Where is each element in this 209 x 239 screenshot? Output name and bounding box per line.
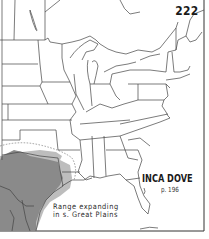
range-map: 222 INCA DOVE p. 196 Range expanding in …: [0, 0, 209, 239]
species-name: INCA DOVE: [142, 172, 193, 184]
page-reference: p. 196: [161, 186, 179, 194]
range-annotation-line-2: in s. Great Plains: [53, 211, 119, 219]
map-number: 222: [176, 3, 199, 18]
range-annotation: Range expanding in s. Great Plains: [53, 203, 119, 219]
